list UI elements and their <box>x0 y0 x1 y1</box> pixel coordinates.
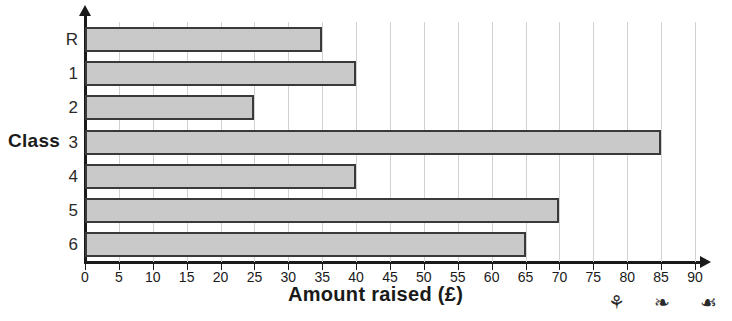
x-tick-label: 90 <box>680 269 710 285</box>
bar-chart: Class Amount raised (£) 0510152025303540… <box>0 0 732 321</box>
y-axis-arrow-icon <box>79 5 91 16</box>
decorative-doodles: ⚘❧☙ <box>608 292 728 318</box>
x-tick-label: 0 <box>70 269 100 285</box>
x-tick-label: 65 <box>511 269 541 285</box>
y-axis-caption: Class <box>8 130 60 152</box>
x-tick-label: 20 <box>206 269 236 285</box>
x-tick-label: 30 <box>273 269 303 285</box>
x-tick-label: 35 <box>307 269 337 285</box>
x-tick-label: 45 <box>375 269 405 285</box>
x-tick-label: 40 <box>341 269 371 285</box>
y-tick-label-5: 5 <box>58 201 78 221</box>
x-tick-label: 25 <box>239 269 269 285</box>
bar-row <box>85 164 695 189</box>
x-tick-label: 55 <box>443 269 473 285</box>
x-tick-label: 75 <box>578 269 608 285</box>
bar-row <box>85 232 695 257</box>
y-tick-label-6: 6 <box>58 235 78 255</box>
bar-row <box>85 198 695 223</box>
bar-2 <box>85 95 254 120</box>
bar-3 <box>85 130 661 155</box>
fish-doodle-icon: ❧ <box>654 292 670 314</box>
y-tick-label-4: 4 <box>58 167 78 187</box>
bar-6 <box>85 232 526 257</box>
x-tick-label: 50 <box>409 269 439 285</box>
x-tick-label: 15 <box>172 269 202 285</box>
x-tick-label: 60 <box>477 269 507 285</box>
bar-5 <box>85 198 559 223</box>
bar-row <box>85 95 695 120</box>
bar-row <box>85 61 695 86</box>
x-axis-caption: Amount raised (£) <box>288 283 463 306</box>
bar-R <box>85 27 322 52</box>
bar-4 <box>85 164 356 189</box>
bar-row <box>85 27 695 52</box>
y-tick-label-2: 2 <box>58 98 78 118</box>
y-tick-label-R: R <box>58 30 78 50</box>
plot-area <box>85 22 695 262</box>
x-axis-arrow-icon <box>700 256 711 268</box>
x-tick-label: 80 <box>612 269 642 285</box>
leaf-doodle-icon: ⚘ <box>608 292 625 314</box>
x-tick-label: 85 <box>646 269 676 285</box>
x-tick-label: 5 <box>104 269 134 285</box>
gridline <box>695 22 696 262</box>
x-tick-label: 10 <box>138 269 168 285</box>
bar-1 <box>85 61 356 86</box>
x-tick-label: 70 <box>544 269 574 285</box>
y-tick-label-3: 3 <box>58 133 78 153</box>
bar-row <box>85 130 695 155</box>
y-tick-label-1: 1 <box>58 64 78 84</box>
leaf-doodle-icon-2: ☙ <box>700 292 717 314</box>
